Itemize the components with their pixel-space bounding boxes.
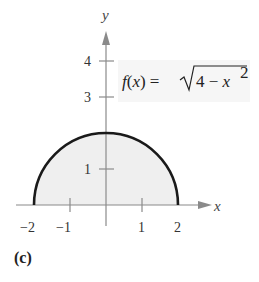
x-tick-label: 1	[138, 220, 145, 235]
x-tick-label: −1	[56, 220, 71, 235]
function-label: f(x) =	[122, 72, 159, 91]
x-tick-label: −2	[20, 220, 35, 235]
y-axis-arrow-icon	[102, 31, 110, 45]
y-tick-label: 4	[84, 54, 91, 69]
y-tick-label: 3	[84, 90, 91, 105]
panel-label: (c)	[14, 249, 32, 267]
y-tick-label: 1	[84, 162, 91, 177]
y-axis-label: y	[100, 7, 109, 23]
x-axis-arrow-icon	[198, 201, 212, 209]
function-radicand: 4 − x	[196, 72, 231, 91]
x-axis-label: x	[213, 198, 221, 214]
x-tick-label: 2	[174, 220, 181, 235]
chart-canvas: −2 −1 1 2 1 3 4 y x f(x) = 4 − x 2 (c)	[0, 0, 259, 282]
function-exponent: 2	[240, 63, 249, 82]
